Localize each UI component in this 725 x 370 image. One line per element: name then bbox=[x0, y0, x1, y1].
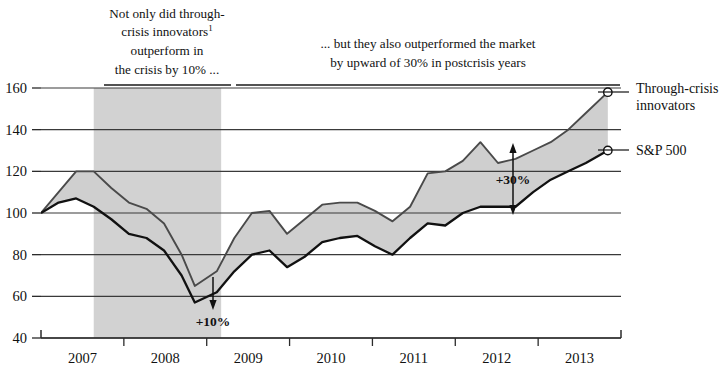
x-tick-label: 2009 bbox=[234, 350, 263, 366]
x-tick-label: 2013 bbox=[565, 350, 594, 366]
y-tick-label: 140 bbox=[5, 122, 27, 138]
svg-text:+10%: +10% bbox=[196, 314, 231, 329]
legend-item-innovators[interactable]: Through-crisis innovators bbox=[598, 81, 718, 113]
legend-item-sp500[interactable]: S&P 500 bbox=[598, 143, 686, 158]
annotation-right-block: ... but they also outperformed the marke… bbox=[236, 36, 620, 85]
x-tick-label: 2011 bbox=[400, 350, 428, 366]
svg-text:the crisis by 10% ...: the crisis by 10% ... bbox=[115, 62, 219, 77]
svg-text:by upward of 30% in postcrisis: by upward of 30% in postcrisis years bbox=[330, 55, 526, 70]
y-axis-tick-labels: 160140120100806040 bbox=[5, 80, 27, 346]
y-tick-label: 60 bbox=[13, 288, 28, 304]
line-chart-svg: 160140120100806040 200720082009201020112… bbox=[0, 0, 725, 370]
legend: Through-crisis innovators S&P 500 bbox=[598, 81, 718, 158]
y-tick-label: 40 bbox=[13, 330, 28, 346]
x-tick-label: 2008 bbox=[151, 350, 180, 366]
svg-text:Through-crisis: Through-crisis bbox=[636, 81, 718, 96]
y-tick-label: 120 bbox=[5, 163, 27, 179]
x-tick-label: 2012 bbox=[482, 350, 511, 366]
svg-text:S&P 500: S&P 500 bbox=[636, 143, 686, 158]
svg-text:crisis innovators1: crisis innovators1 bbox=[121, 23, 212, 39]
svg-text:... but they also outperformed: ... but they also outperformed the marke… bbox=[321, 36, 536, 51]
x-axis-tick-labels: 2007200820092010201120122013 bbox=[68, 350, 594, 366]
svg-text:+30%: +30% bbox=[496, 172, 531, 187]
svg-text:outperform in: outperform in bbox=[131, 43, 204, 58]
chart-figure: 160140120100806040 200720082009201020112… bbox=[0, 0, 725, 370]
svg-text:Not only did through-: Not only did through- bbox=[109, 6, 224, 21]
annotation-left-block: Not only did through- crisis innovators1… bbox=[104, 6, 231, 85]
x-tick-label: 2010 bbox=[317, 350, 346, 366]
y-tick-label: 160 bbox=[5, 80, 27, 96]
y-tick-label: 100 bbox=[5, 205, 27, 221]
y-tick-label: 80 bbox=[13, 247, 28, 263]
x-tick-label: 2007 bbox=[68, 350, 97, 366]
svg-text:innovators: innovators bbox=[636, 98, 695, 113]
